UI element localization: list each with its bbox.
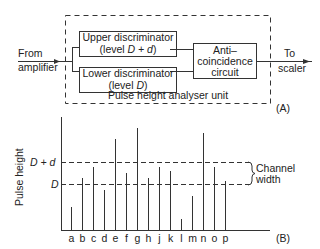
anti-coincidence-line3: circuit (193, 67, 257, 78)
analyser-unit-label: Pulse height analyser unit (65, 90, 271, 101)
panel-label-a: (A) (276, 103, 290, 114)
input-label-from: From (18, 48, 43, 59)
upper-discriminator-title: Upper discriminator (79, 32, 177, 43)
upper-discriminator-level: (level D + d) (79, 44, 177, 55)
y-axis-label: Pulse height (14, 146, 25, 206)
channel-width-label-2: width (256, 174, 281, 185)
lower-level-label: D (51, 179, 59, 190)
pulse-bars (72, 128, 226, 230)
channel-width-brace-icon (248, 162, 255, 185)
panel-label-b: (B) (276, 233, 290, 244)
upper-level-label: D + d (30, 157, 55, 168)
x-tick-label: p (220, 233, 232, 244)
lower-discriminator-title: Lower discriminator (79, 68, 177, 79)
output-label-scaler: scaler (278, 63, 306, 74)
input-label-amplifier: amplifier (18, 62, 58, 73)
output-label-to: To (284, 48, 295, 59)
